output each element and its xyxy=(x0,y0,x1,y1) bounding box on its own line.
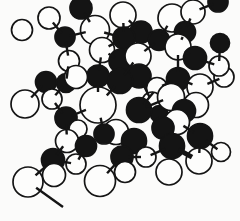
atom-open xyxy=(156,159,182,185)
crystal-structure-figure xyxy=(0,0,240,221)
atom-filled xyxy=(127,98,152,123)
bond xyxy=(181,37,182,40)
atom-filled xyxy=(94,124,114,144)
bond xyxy=(67,66,69,78)
atom-open xyxy=(115,162,136,183)
atom-open xyxy=(212,143,231,162)
atom-filled xyxy=(184,47,207,70)
atom-filled xyxy=(76,136,97,157)
atom-open xyxy=(12,20,33,41)
bond xyxy=(219,47,220,61)
molecular-structure-diagram xyxy=(0,0,240,221)
atom-open xyxy=(181,0,205,24)
atom-filled xyxy=(160,134,185,159)
